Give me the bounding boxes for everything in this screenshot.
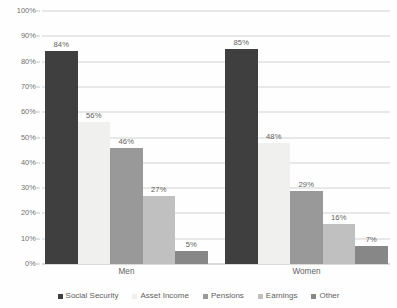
bar — [355, 246, 388, 264]
y-axis-tick-label: 30% — [21, 184, 36, 191]
legend-item[interactable]: Pensions — [203, 292, 244, 300]
plot-area: 0%10%20%30%40%50%60%70%80%90%100% 84%56%… — [0, 0, 397, 282]
bars-layer: 84%56%46%27%5%Men85%48%29%16%7%Women — [42, 0, 390, 282]
bar-value-label: 27% — [151, 186, 167, 194]
chart-legend: Social SecurityAsset IncomePensionsEarni… — [0, 288, 397, 304]
bar — [175, 251, 208, 264]
y-axis-tick-mark — [36, 112, 40, 113]
y-axis-tick-label: 10% — [21, 235, 36, 242]
bar — [143, 196, 176, 264]
legend-item-label: Pensions — [211, 292, 244, 300]
bar — [225, 49, 258, 264]
legend-item-label: Other — [319, 292, 339, 300]
y-axis-tick-mark — [36, 137, 40, 138]
y-axis-tick-label: 50% — [21, 134, 36, 141]
y-axis-tick-mark — [36, 36, 40, 37]
legend-swatch-icon — [58, 294, 63, 299]
y-axis-tick-label: 40% — [21, 159, 36, 166]
bar — [78, 122, 111, 264]
bar — [290, 191, 323, 264]
y-axis-tick-mark — [36, 11, 40, 12]
y-axis-tick-label: 60% — [21, 108, 36, 115]
bar — [323, 224, 356, 264]
bar-chart: 0%10%20%30%40%50%60%70%80%90%100% 84%56%… — [0, 0, 397, 308]
bar-value-label: 46% — [119, 138, 135, 146]
legend-item-label: Earnings — [266, 292, 298, 300]
bar-value-label: 29% — [299, 181, 315, 189]
legend-item-label: Social Security — [66, 292, 119, 300]
legend-swatch-icon — [311, 294, 316, 299]
bar — [45, 51, 78, 264]
x-axis-category-label: Women — [292, 268, 320, 276]
legend-item[interactable]: Social Security — [58, 292, 119, 300]
x-axis-category-label: Men — [119, 268, 135, 276]
bar-value-label: 16% — [331, 214, 347, 222]
bar-value-label: 7% — [366, 236, 377, 244]
y-axis-tick-mark — [36, 213, 40, 214]
legend-swatch-icon — [132, 294, 137, 299]
bar-value-label: 48% — [266, 133, 282, 141]
legend-swatch-icon — [203, 294, 208, 299]
bar — [110, 148, 143, 264]
y-axis-tick-label: 80% — [21, 58, 36, 65]
y-axis-tick-mark — [36, 264, 40, 265]
y-axis-tick-label: 100% — [17, 7, 36, 14]
y-axis-tick-mark — [36, 86, 40, 87]
legend-item[interactable]: Earnings — [258, 292, 298, 300]
bar-value-label: 84% — [54, 41, 70, 49]
legend-item[interactable]: Other — [311, 292, 339, 300]
y-axis-tick-label: 90% — [21, 33, 36, 40]
legend-swatch-icon — [258, 294, 263, 299]
y-axis-tick-mark — [36, 238, 40, 239]
y-axis-tick-label: 70% — [21, 83, 36, 90]
y-axis-tick-label: 0% — [25, 260, 36, 267]
bar-value-label: 56% — [86, 112, 102, 120]
legend-item[interactable]: Asset Income — [132, 292, 188, 300]
y-axis-tick-mark — [36, 188, 40, 189]
y-axis-tick-mark — [36, 61, 40, 62]
legend-item-label: Asset Income — [140, 292, 188, 300]
y-axis-tick-label: 20% — [21, 210, 36, 217]
y-axis: 0%10%20%30%40%50%60%70%80%90%100% — [0, 0, 40, 282]
bar-value-label: 85% — [234, 39, 250, 47]
bar-value-label: 5% — [186, 241, 197, 249]
y-axis-tick-mark — [36, 162, 40, 163]
bar — [258, 143, 291, 264]
